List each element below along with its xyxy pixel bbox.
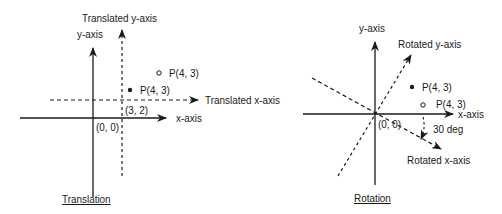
translation-diagram [20,30,198,197]
angle-label: 30 deg [433,123,463,135]
translation-caption: Translation [62,193,111,205]
angle-arc [421,117,424,139]
new-origin-label: (3, 2) [125,104,148,116]
y-axis-label: y-axis [359,22,385,34]
rotation-caption: Rotation [354,192,391,204]
y-axis-label: y-axis [77,28,103,40]
translated-x-axis-label: Translated x-axis [205,94,280,106]
rotated-x-axis-label: Rotated x-axis [407,154,470,166]
point-open-marker [157,71,161,75]
diagram-canvas [0,0,502,214]
point-filled-marker [410,85,414,89]
x-axis-label: x-axis [176,112,202,124]
point-open-marker [421,103,425,107]
point-filled-label: P(4, 3) [140,84,170,96]
origin-label: (0, 0) [96,121,119,133]
point-filled-marker [128,88,132,92]
point-open-label: P(4, 3) [169,67,199,79]
point-filled-label: P(4, 3) [422,81,452,93]
rotated-y-axis-label: Rotated y-axis [398,38,461,50]
x-axis-label: x-axis [458,108,484,120]
origin-label: (0, 0) [378,118,401,130]
translated-y-axis-label: Translated y-axis [82,12,157,24]
